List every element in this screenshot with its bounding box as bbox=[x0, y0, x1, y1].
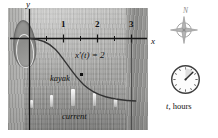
current-mark bbox=[50, 95, 53, 107]
clock-caption: t, hours bbox=[166, 101, 192, 111]
current-mark bbox=[71, 89, 75, 106]
analog-clock-icon bbox=[170, 64, 201, 95]
compass-north-label: N bbox=[183, 6, 188, 15]
compass-rose-icon bbox=[169, 15, 199, 45]
x-tick-label-3: 3 bbox=[129, 19, 134, 29]
current-label: current bbox=[62, 111, 87, 121]
curve-point-marker bbox=[80, 73, 83, 76]
clock-caption-units: , hours bbox=[168, 101, 191, 111]
x-axis-label: x bbox=[151, 36, 155, 46]
compass-point-s bbox=[182, 30, 186, 44]
x-tick-label-1: 1 bbox=[61, 19, 66, 29]
current-mark bbox=[114, 98, 117, 107]
current-mark bbox=[30, 100, 33, 108]
compass-point-e bbox=[184, 28, 198, 32]
clock-center-pin bbox=[184, 78, 186, 80]
x-tick-label-2: 2 bbox=[95, 19, 100, 29]
derivative-annotation: x′(t) = 2 bbox=[75, 50, 105, 60]
y-axis-label: y bbox=[26, 0, 30, 9]
compass-point-n bbox=[182, 17, 186, 31]
current-mark bbox=[93, 93, 96, 106]
compass-center bbox=[183, 29, 186, 32]
kayak-label: kayak bbox=[50, 73, 70, 83]
compass-point-w bbox=[171, 28, 185, 32]
